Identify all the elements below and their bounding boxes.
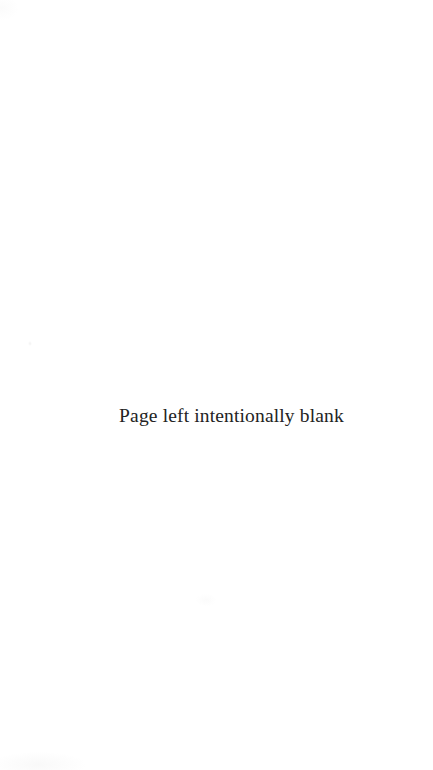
blank-page-notice: Page left intentionally blank: [0, 404, 433, 428]
document-page: Page left intentionally blank: [0, 0, 433, 770]
scan-artifact-top-left-icon: [0, 0, 18, 20]
scan-artifact-bottom-center-icon: [196, 594, 216, 606]
blank-page-notice-text: Page left intentionally blank: [119, 404, 344, 428]
scan-artifact-bottom-left-icon: [0, 752, 86, 770]
scan-artifact-left-margin-icon: [28, 341, 32, 346]
